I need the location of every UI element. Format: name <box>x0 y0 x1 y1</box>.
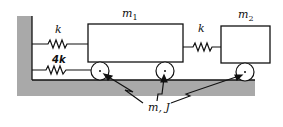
cylinder-label: m, J <box>148 101 170 114</box>
spring-k-label-middle: k <box>198 22 205 35</box>
mass-m1: m1 <box>88 7 183 62</box>
spring-4k-label: 4k <box>51 54 67 65</box>
mass-m1-label: m1 <box>122 7 138 22</box>
spring-k-label-top: k <box>55 23 62 36</box>
mass-m2: m2 <box>221 8 270 63</box>
spring-wall-m1-bottom: 4k <box>32 54 92 74</box>
mass-spring-diagram: m1 m2 k 4k k <box>0 0 283 127</box>
spring-wall-m1-top: k <box>32 23 88 48</box>
spring-m1-m2: k <box>183 22 221 51</box>
mass-m2-label: m2 <box>238 8 254 23</box>
